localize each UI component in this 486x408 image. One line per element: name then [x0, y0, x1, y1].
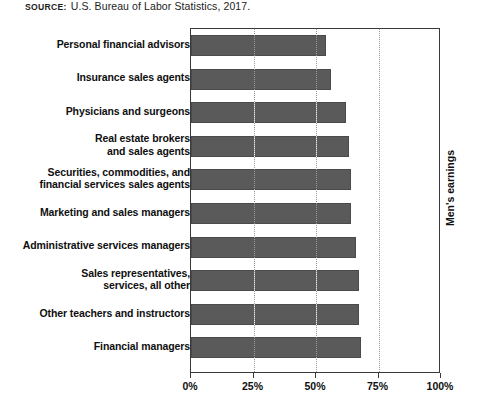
- y-axis-right-title: Men's earnings: [444, 150, 456, 226]
- x-tick-label: 100%: [427, 380, 454, 392]
- bar-5: [191, 169, 351, 190]
- x-tick-label: 0%: [182, 380, 197, 392]
- bar-6: [191, 203, 351, 224]
- x-tick-mark: [190, 373, 191, 378]
- bar-fill: [191, 35, 326, 56]
- chart-plot-area: [190, 28, 440, 373]
- bar-fill: [191, 237, 356, 258]
- x-tick-label: 25%: [242, 380, 263, 392]
- bar-3: [191, 102, 346, 123]
- category-label: Financial managers: [94, 340, 190, 353]
- bar-fill: [191, 270, 359, 291]
- category-label: Marketing and sales managers: [40, 206, 190, 219]
- category-label: Administrative services managers: [23, 239, 190, 252]
- bar-fill: [191, 169, 351, 190]
- source-note: SOURCE: U.S. Bureau of Labor Statistics,…: [25, 0, 250, 12]
- bar-fill: [191, 337, 361, 358]
- bar-fill: [191, 136, 349, 157]
- bar-7: [191, 237, 356, 258]
- x-tick-mark: [253, 373, 254, 378]
- bar-fill: [191, 69, 331, 90]
- gridline-25: [254, 29, 255, 372]
- category-label: Other teachers and instructors: [40, 307, 190, 320]
- source-label: SOURCE:: [25, 2, 67, 12]
- gridline-50: [316, 29, 317, 372]
- category-label: Securities, commodities, and financial s…: [40, 166, 190, 191]
- category-label: Physicians and surgeons: [66, 105, 190, 118]
- category-label: Real estate brokers and sales agents: [95, 132, 190, 157]
- x-tick-mark: [378, 373, 379, 378]
- gridline-75: [379, 29, 380, 372]
- x-tick-mark: [315, 373, 316, 378]
- bar-10: [191, 337, 361, 358]
- x-tick-mark: [440, 373, 441, 378]
- bar-2: [191, 69, 331, 90]
- bar-4: [191, 136, 349, 157]
- bar-1: [191, 35, 326, 56]
- bar-fill: [191, 203, 351, 224]
- category-label: Personal financial advisors: [57, 38, 190, 51]
- bar-9: [191, 304, 359, 325]
- bar-8: [191, 270, 359, 291]
- x-tick-label: 50%: [304, 380, 325, 392]
- category-label: Sales representatives, services, all oth…: [81, 267, 190, 292]
- bar-fill: [191, 304, 359, 325]
- category-label: Insurance sales agents: [77, 71, 190, 84]
- bars-layer: [191, 29, 439, 372]
- bar-fill: [191, 102, 346, 123]
- x-tick-label: 75%: [367, 380, 388, 392]
- source-text: U.S. Bureau of Labor Statistics, 2017.: [71, 0, 250, 12]
